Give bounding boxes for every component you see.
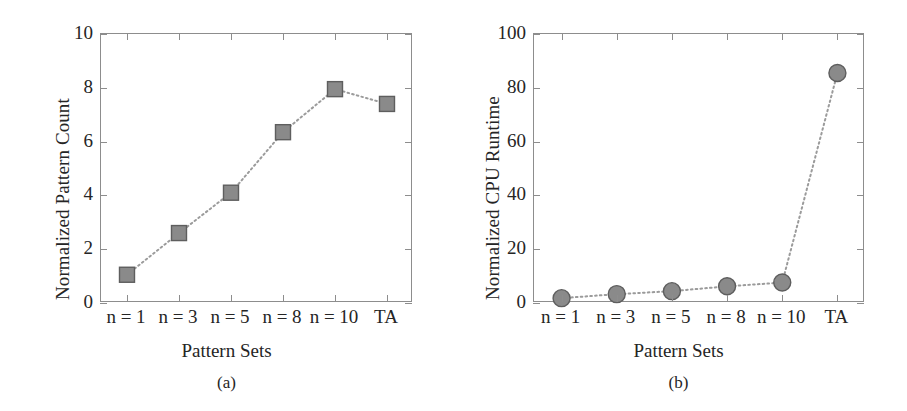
- y-axis-label-a: Normalized Pattern Count: [52, 98, 74, 300]
- data-point-a-1: [172, 226, 187, 241]
- x-tick-a-4: [335, 33, 336, 40]
- y-tick-label-b-20: 20: [507, 237, 533, 259]
- x-tick-label-b-1: n = 3: [596, 306, 635, 328]
- series-line-b: [562, 73, 838, 298]
- x-tick-a-4: [335, 295, 336, 302]
- y-tick-a-6: [405, 142, 412, 143]
- data-point-b-3: [719, 278, 736, 295]
- data-point-a-2: [224, 185, 239, 200]
- x-tick-label-b-0: n = 1: [541, 306, 580, 328]
- panel-b: Normalized CPU Runtime 020406080100 n = …: [452, 0, 905, 411]
- x-tick-b-4: [782, 33, 783, 40]
- data-point-a-0: [120, 267, 135, 282]
- y-tick-a-8: [405, 88, 412, 89]
- y-tick-b-100: [533, 34, 540, 35]
- y-tick-label-a-2: 2: [84, 237, 101, 259]
- y-tick-b-80: [533, 88, 540, 89]
- plot-area-a: [100, 33, 412, 302]
- x-tick-b-3: [727, 33, 728, 40]
- x-tick-a-2: [231, 295, 232, 302]
- x-tick-b-0: [562, 295, 563, 302]
- panel-caption-a: (a): [0, 373, 453, 393]
- y-tick-a-0: [100, 303, 107, 304]
- y-tick-label-a-8: 8: [84, 76, 101, 98]
- x-axis-label-a: Pattern Sets: [0, 340, 453, 362]
- x-axis-label-b: Pattern Sets: [452, 340, 905, 362]
- y-tick-label-b-0: 0: [517, 291, 534, 313]
- data-point-b-5: [829, 65, 846, 82]
- y-tick-label-a-4: 4: [84, 183, 101, 205]
- series-line-a: [127, 89, 387, 275]
- x-tick-label-b-3: n = 8: [706, 306, 745, 328]
- y-tick-a-10: [405, 34, 412, 35]
- y-tick-b-40: [533, 195, 540, 196]
- data-point-a-5: [380, 96, 395, 111]
- y-tick-b-60: [857, 142, 864, 143]
- data-point-a-4: [328, 82, 343, 97]
- y-tick-a-4: [405, 195, 412, 196]
- y-tick-a-6: [100, 142, 107, 143]
- y-tick-a-10: [100, 34, 107, 35]
- x-tick-b-5: [837, 33, 838, 40]
- x-tick-a-5: [387, 33, 388, 40]
- y-tick-label-a-6: 6: [84, 130, 101, 152]
- x-tick-label-a-3: n = 8: [262, 306, 301, 328]
- x-tick-b-4: [782, 295, 783, 302]
- y-tick-b-0: [533, 303, 540, 304]
- x-tick-label-b-2: n = 5: [651, 306, 690, 328]
- x-tick-b-3: [727, 295, 728, 302]
- x-tick-a-1: [179, 33, 180, 40]
- x-tick-b-1: [617, 33, 618, 40]
- panel-a: Normalized Pattern Count 0246810 n = 1n …: [0, 0, 453, 411]
- x-tick-a-2: [231, 33, 232, 40]
- x-tick-a-0: [127, 33, 128, 40]
- y-tick-a-4: [100, 195, 107, 196]
- y-tick-label-b-60: 60: [507, 130, 533, 152]
- x-tick-a-0: [127, 295, 128, 302]
- x-tick-label-a-0: n = 1: [106, 306, 145, 328]
- y-tick-b-40: [857, 195, 864, 196]
- x-tick-b-0: [562, 33, 563, 40]
- y-tick-label-a-0: 0: [84, 291, 101, 313]
- x-tick-b-1: [617, 295, 618, 302]
- x-tick-label-a-5: TA: [374, 306, 398, 328]
- data-series-a: [101, 34, 413, 303]
- y-tick-label-b-80: 80: [507, 76, 533, 98]
- y-tick-b-20: [857, 249, 864, 250]
- x-tick-b-2: [672, 33, 673, 40]
- x-tick-a-3: [283, 295, 284, 302]
- x-tick-b-5: [837, 295, 838, 302]
- y-tick-b-60: [533, 142, 540, 143]
- y-tick-a-0: [405, 303, 412, 304]
- x-tick-a-5: [387, 295, 388, 302]
- y-tick-b-20: [533, 249, 540, 250]
- y-tick-label-b-100: 100: [498, 22, 534, 44]
- plot-area-b: [533, 33, 864, 302]
- y-tick-b-80: [857, 88, 864, 89]
- y-tick-b-0: [857, 303, 864, 304]
- x-tick-label-b-4: n = 10: [757, 306, 806, 328]
- data-series-b: [534, 34, 865, 303]
- x-tick-label-a-4: n = 10: [310, 306, 359, 328]
- x-tick-a-3: [283, 33, 284, 40]
- y-tick-label-b-40: 40: [507, 183, 533, 205]
- data-point-a-3: [276, 125, 291, 140]
- x-tick-a-1: [179, 295, 180, 302]
- y-tick-a-2: [100, 249, 107, 250]
- x-tick-label-a-1: n = 3: [158, 306, 197, 328]
- y-axis-label-b: Normalized CPU Runtime: [482, 96, 504, 300]
- panel-caption-b: (b): [452, 373, 905, 393]
- y-tick-a-2: [405, 249, 412, 250]
- y-tick-b-100: [857, 34, 864, 35]
- x-tick-b-2: [672, 295, 673, 302]
- x-tick-label-a-2: n = 5: [210, 306, 249, 328]
- y-tick-a-8: [100, 88, 107, 89]
- y-tick-label-a-10: 10: [74, 22, 100, 44]
- figure-container: Normalized Pattern Count 0246810 n = 1n …: [0, 0, 907, 411]
- data-point-b-4: [774, 274, 791, 291]
- x-tick-label-b-5: TA: [825, 306, 849, 328]
